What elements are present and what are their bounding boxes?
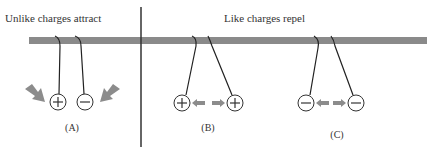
string — [331, 36, 353, 95]
charges-diagram: Unlike charges attract Like charges repe… — [0, 0, 447, 153]
arrow-right-icon — [212, 99, 225, 107]
negative-charge-ball — [348, 95, 364, 111]
panel-b: (B) — [174, 36, 243, 134]
panel-label-a: (A) — [65, 122, 79, 134]
string — [186, 36, 196, 95]
arrow-right-down-icon — [25, 84, 45, 102]
string — [208, 36, 232, 95]
heading-like-charges: Like charges repel — [224, 12, 305, 24]
string — [55, 36, 60, 94]
positive-charge-ball — [227, 95, 243, 111]
string — [310, 36, 319, 95]
negative-charge-ball — [298, 95, 314, 111]
arrow-left-icon — [192, 99, 205, 107]
arrow-right-icon — [333, 99, 346, 107]
arrow-left-icon — [316, 99, 329, 107]
positive-charge-ball — [174, 95, 190, 111]
support-rod — [29, 37, 427, 44]
panel-a: (A) — [25, 36, 120, 134]
heading-unlike-charges: Unlike charges attract — [5, 12, 101, 24]
arrow-left-down-icon — [100, 84, 120, 102]
panel-label-c: (C) — [330, 129, 343, 141]
string — [75, 36, 84, 94]
panel-label-b: (B) — [201, 122, 214, 134]
positive-charge-ball — [50, 94, 66, 110]
panel-c: (C) — [298, 36, 364, 141]
negative-charge-ball — [77, 94, 93, 110]
